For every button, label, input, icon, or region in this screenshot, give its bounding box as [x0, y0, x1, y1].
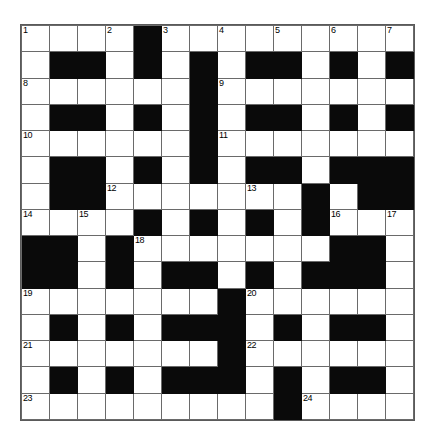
letter-cell[interactable]	[330, 79, 358, 105]
letter-cell[interactable]	[386, 315, 414, 341]
letter-cell[interactable]: 12	[106, 184, 134, 210]
letter-cell[interactable]	[50, 26, 78, 52]
letter-cell[interactable]	[78, 341, 106, 367]
crossword-grid[interactable]: 123456789101112131415161718192021222324	[21, 25, 414, 420]
letter-cell[interactable]: 21	[22, 341, 50, 367]
letter-cell[interactable]	[134, 341, 162, 367]
letter-cell[interactable]: 5	[274, 26, 302, 52]
letter-cell[interactable]	[330, 289, 358, 315]
letter-cell[interactable]	[218, 262, 246, 288]
letter-cell[interactable]	[302, 341, 330, 367]
letter-cell[interactable]	[246, 236, 274, 262]
letter-cell[interactable]	[302, 79, 330, 105]
letter-cell[interactable]	[218, 184, 246, 210]
letter-cell[interactable]	[330, 184, 358, 210]
letter-cell[interactable]	[358, 131, 386, 157]
letter-cell[interactable]	[302, 131, 330, 157]
letter-cell[interactable]: 1	[22, 26, 50, 52]
letter-cell[interactable]	[50, 210, 78, 236]
letter-cell[interactable]	[162, 131, 190, 157]
letter-cell[interactable]	[386, 236, 414, 262]
letter-cell[interactable]: 6	[330, 26, 358, 52]
letter-cell[interactable]	[274, 341, 302, 367]
letter-cell[interactable]	[302, 367, 330, 393]
letter-cell[interactable]	[50, 289, 78, 315]
letter-cell[interactable]	[134, 289, 162, 315]
letter-cell[interactable]	[22, 52, 50, 78]
letter-cell[interactable]	[78, 131, 106, 157]
letter-cell[interactable]	[386, 341, 414, 367]
letter-cell[interactable]	[218, 52, 246, 78]
letter-cell[interactable]: 16	[330, 210, 358, 236]
letter-cell[interactable]	[134, 184, 162, 210]
letter-cell[interactable]	[162, 341, 190, 367]
letter-cell[interactable]: 7	[386, 26, 414, 52]
letter-cell[interactable]: 9	[218, 79, 246, 105]
letter-cell[interactable]	[274, 131, 302, 157]
letter-cell[interactable]: 13	[246, 184, 274, 210]
letter-cell[interactable]	[162, 289, 190, 315]
letter-cell[interactable]	[162, 52, 190, 78]
letter-cell[interactable]	[106, 52, 134, 78]
letter-cell[interactable]	[302, 52, 330, 78]
letter-cell[interactable]: 11	[218, 131, 246, 157]
letter-cell[interactable]: 3	[162, 26, 190, 52]
letter-cell[interactable]	[78, 26, 106, 52]
letter-cell[interactable]: 4	[218, 26, 246, 52]
letter-cell[interactable]	[218, 157, 246, 183]
letter-cell[interactable]	[302, 315, 330, 341]
letter-cell[interactable]	[22, 184, 50, 210]
letter-cell[interactable]	[386, 79, 414, 105]
letter-cell[interactable]	[106, 394, 134, 420]
letter-cell[interactable]	[50, 131, 78, 157]
letter-cell[interactable]	[386, 131, 414, 157]
letter-cell[interactable]	[246, 394, 274, 420]
letter-cell[interactable]	[134, 394, 162, 420]
letter-cell[interactable]	[330, 131, 358, 157]
letter-cell[interactable]	[162, 210, 190, 236]
letter-cell[interactable]	[162, 236, 190, 262]
letter-cell[interactable]	[358, 52, 386, 78]
letter-cell[interactable]	[106, 341, 134, 367]
letter-cell[interactable]	[106, 131, 134, 157]
letter-cell[interactable]	[218, 105, 246, 131]
letter-cell[interactable]: 17	[386, 210, 414, 236]
letter-cell[interactable]	[50, 394, 78, 420]
letter-cell[interactable]: 18	[134, 236, 162, 262]
letter-cell[interactable]	[358, 26, 386, 52]
letter-cell[interactable]	[162, 184, 190, 210]
letter-cell[interactable]	[78, 315, 106, 341]
letter-cell[interactable]	[246, 131, 274, 157]
letter-cell[interactable]	[22, 105, 50, 131]
letter-cell[interactable]	[106, 157, 134, 183]
letter-cell[interactable]	[190, 236, 218, 262]
letter-cell[interactable]	[106, 289, 134, 315]
letter-cell[interactable]	[246, 315, 274, 341]
letter-cell[interactable]	[162, 79, 190, 105]
letter-cell[interactable]	[106, 105, 134, 131]
letter-cell[interactable]	[22, 315, 50, 341]
letter-cell[interactable]	[78, 289, 106, 315]
letter-cell[interactable]	[134, 315, 162, 341]
letter-cell[interactable]	[302, 105, 330, 131]
letter-cell[interactable]	[358, 210, 386, 236]
letter-cell[interactable]	[274, 210, 302, 236]
letter-cell[interactable]	[358, 289, 386, 315]
letter-cell[interactable]	[358, 105, 386, 131]
letter-cell[interactable]	[78, 79, 106, 105]
letter-cell[interactable]	[302, 236, 330, 262]
letter-cell[interactable]	[302, 289, 330, 315]
letter-cell[interactable]	[302, 157, 330, 183]
letter-cell[interactable]	[274, 262, 302, 288]
letter-cell[interactable]	[246, 367, 274, 393]
letter-cell[interactable]	[134, 79, 162, 105]
letter-cell[interactable]	[78, 367, 106, 393]
letter-cell[interactable]	[190, 289, 218, 315]
letter-cell[interactable]	[358, 341, 386, 367]
letter-cell[interactable]	[358, 79, 386, 105]
letter-cell[interactable]	[274, 184, 302, 210]
letter-cell[interactable]	[246, 26, 274, 52]
letter-cell[interactable]	[78, 262, 106, 288]
letter-cell[interactable]	[246, 79, 274, 105]
letter-cell[interactable]	[162, 394, 190, 420]
